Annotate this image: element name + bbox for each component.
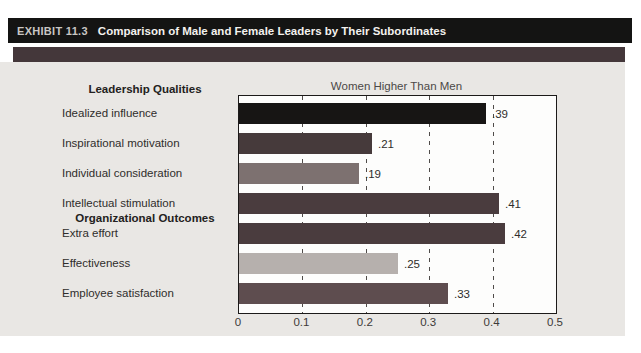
chart-title: Women Higher Than Men bbox=[238, 80, 555, 92]
bar-employee-satisfaction bbox=[239, 283, 448, 304]
bar-value-label: .41 bbox=[505, 198, 521, 210]
bar-intellectual-stimulation bbox=[239, 193, 499, 214]
x-tick-label: 0.3 bbox=[420, 316, 436, 328]
category-label: Intellectual stimulation bbox=[62, 197, 175, 209]
x-tick-label: 0.5 bbox=[547, 316, 563, 328]
exhibit-panel: EXHIBIT 11.3 Comparison of Male and Fema… bbox=[0, 0, 641, 353]
bar-value-label: .39 bbox=[492, 108, 508, 120]
bar-inspirational-motivation bbox=[239, 133, 372, 154]
category-label: Extra effort bbox=[62, 227, 118, 239]
x-tick-label: 0.4 bbox=[484, 316, 500, 328]
exhibit-header: EXHIBIT 11.3 Comparison of Male and Fema… bbox=[8, 18, 632, 43]
bar-idealized-influence bbox=[239, 103, 486, 124]
plot-area: .39.21.19.41.42.25.33 bbox=[238, 95, 557, 314]
category-label: Inspirational motivation bbox=[62, 137, 180, 149]
exhibit-number-label: EXHIBIT 11.3 bbox=[17, 25, 88, 37]
category-label: Effectiveness bbox=[62, 257, 130, 269]
x-tick-label: 0 bbox=[235, 316, 241, 328]
bar-value-label: .19 bbox=[365, 168, 381, 180]
accent-band bbox=[13, 47, 625, 62]
bar-effectiveness bbox=[239, 253, 398, 274]
category-label: Idealized influence bbox=[62, 107, 157, 119]
bar-value-label: .42 bbox=[511, 228, 527, 240]
bar-individual-consideration bbox=[239, 163, 359, 184]
category-label: Individual consideration bbox=[62, 167, 182, 179]
bar-value-label: .21 bbox=[378, 138, 394, 150]
exhibit-title: Comparison of Male and Female Leaders by… bbox=[98, 25, 446, 37]
x-tick-label: 0.1 bbox=[293, 316, 309, 328]
x-tick-label: 0.2 bbox=[357, 316, 373, 328]
bar-value-label: .33 bbox=[454, 288, 470, 300]
group-header-organizational-outcomes: Organizational Outcomes bbox=[55, 212, 235, 224]
bar-value-label: .25 bbox=[404, 258, 420, 270]
category-label: Employee satisfaction bbox=[62, 287, 174, 299]
group-header-leadership-qualities: Leadership Qualities bbox=[55, 83, 235, 95]
bar-extra-effort bbox=[239, 223, 505, 244]
